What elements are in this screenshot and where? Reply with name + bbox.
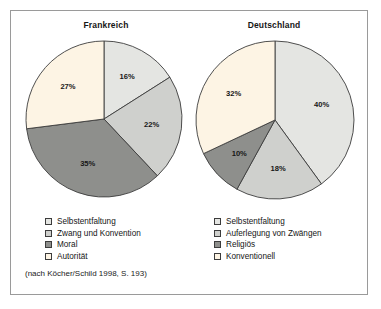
legend-swatch: [214, 241, 221, 248]
pie-slices-frankreich: [26, 41, 182, 197]
chart-title-frankreich: Frankreich: [31, 20, 181, 30]
legend-label: Zwang und Konvention: [57, 228, 141, 240]
pie-slices-deutschland: [196, 41, 354, 199]
pie-slice-label: 16%: [120, 72, 135, 81]
legend-label: Religiös: [226, 239, 255, 251]
source-note: (nach Köcher/Schild 1998, S. 193): [25, 269, 147, 278]
pie-chart-frankreich: 16%22%35%27%: [25, 39, 183, 199]
pie-slice-label: 40%: [314, 100, 329, 109]
pie-svg-deutschland: 40%18%10%32%: [195, 39, 355, 201]
pie-chart-deutschland: 40%18%10%32%: [195, 39, 355, 201]
pie-slice-label: 18%: [270, 164, 285, 173]
legend-label: Autorität: [57, 251, 88, 263]
legend-item: Zwang und Konvention: [45, 228, 141, 240]
legend-swatch: [45, 253, 52, 260]
pie-slice-label: 35%: [80, 159, 95, 168]
legend-item: Selbstentfaltung: [214, 216, 322, 228]
legend-label: Selbstentfaltung: [57, 216, 116, 228]
pie-slice-label: 22%: [144, 120, 159, 129]
pie-slice-label: 27%: [60, 82, 75, 91]
legend-item: Konventionell: [214, 251, 322, 263]
pie-svg-frankreich: 16%22%35%27%: [25, 39, 183, 199]
legend-item: Selbstentfaltung: [45, 216, 141, 228]
pie-slice-label: 32%: [226, 89, 241, 98]
legend-swatch: [45, 241, 52, 248]
legend-item: Moral: [45, 239, 141, 251]
legend-swatch: [214, 230, 221, 237]
legend-swatch: [214, 253, 221, 260]
legend-frankreich: SelbstentfaltungZwang und KonventionMora…: [45, 216, 141, 262]
legend-deutschland: SelbstentfaltungAuferlegung von ZwängenR…: [214, 216, 322, 262]
chart-title-deutschland: Deutschland: [199, 20, 349, 30]
figure-frame: Frankreich Deutschland 16%22%35%27% 40%1…: [10, 10, 368, 295]
legend-label: Selbstentfaltung: [226, 216, 285, 228]
legend-item: Auferlegung von Zwängen: [214, 228, 322, 240]
legend-item: Religiös: [214, 239, 322, 251]
legend-label: Konventionell: [226, 251, 275, 263]
legend-swatch: [214, 218, 221, 225]
pie-slice-label: 10%: [232, 149, 247, 158]
legend-label: Moral: [57, 239, 77, 251]
legend-swatch: [45, 218, 52, 225]
legend-label: Auferlegung von Zwängen: [226, 228, 322, 240]
legend-swatch: [45, 230, 52, 237]
legend-item: Autorität: [45, 251, 141, 263]
